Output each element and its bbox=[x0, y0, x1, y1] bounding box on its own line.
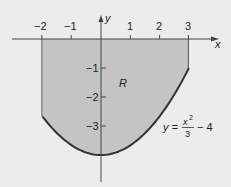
x-axis-label: x bbox=[214, 38, 221, 50]
equation-lhs: y = bbox=[162, 121, 179, 133]
equation-exponent: 2 bbox=[189, 114, 193, 121]
x-tick-label: 2 bbox=[156, 20, 162, 32]
curve-equation: y = x 2 3 − 4 bbox=[162, 114, 213, 139]
equation-tail: − 4 bbox=[197, 121, 213, 133]
x-tick-label: 3 bbox=[185, 20, 191, 32]
y-tick-label: −2 bbox=[86, 91, 99, 103]
shaded-region-R bbox=[42, 39, 189, 155]
y-tick-label: −3 bbox=[86, 120, 99, 132]
equation-numerator: x bbox=[182, 117, 188, 127]
x-tick-label: −2 bbox=[34, 20, 47, 32]
y-axis-label: y bbox=[104, 12, 112, 24]
y-axis-arrow-icon bbox=[99, 15, 104, 22]
x-tick-label: 1 bbox=[127, 20, 133, 32]
region-label: R bbox=[119, 77, 127, 89]
diagram-canvas: x y −2 −1 1 2 3 −1 −2 −3 R y = x 2 3 − 4 bbox=[0, 0, 231, 187]
x-ticks bbox=[42, 35, 189, 39]
x-tick-label: −1 bbox=[64, 20, 77, 32]
y-tick-label: −1 bbox=[86, 62, 99, 74]
region-diagram: x y −2 −1 1 2 3 −1 −2 −3 R y = x 2 3 − 4 bbox=[0, 0, 231, 187]
equation-denominator: 3 bbox=[185, 129, 190, 139]
